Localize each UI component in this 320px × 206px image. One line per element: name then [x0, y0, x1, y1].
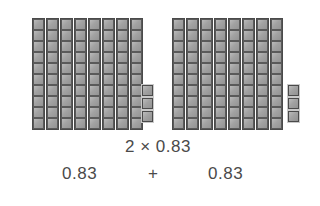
unit-cell	[103, 74, 114, 85]
unit-cell	[201, 19, 212, 30]
unit-cell	[103, 118, 114, 129]
unit-cell	[187, 63, 198, 74]
unit-cell	[201, 85, 212, 96]
tens-rod	[214, 18, 227, 130]
unit-cell	[75, 85, 86, 96]
tens-rod	[74, 18, 87, 130]
tens-rod	[46, 18, 59, 130]
tens-rod	[172, 18, 185, 130]
tens-rod	[32, 18, 45, 130]
unit-cell	[173, 30, 184, 41]
unit-cell	[61, 41, 72, 52]
loose-unit-cube	[288, 85, 299, 96]
unit-cell	[117, 52, 128, 63]
unit-cell	[243, 118, 254, 129]
unit-cell	[33, 30, 44, 41]
unit-cell	[33, 96, 44, 107]
unit-cell	[173, 107, 184, 118]
unit-cell	[215, 19, 226, 30]
unit-cell	[33, 41, 44, 52]
unit-cell	[75, 41, 86, 52]
unit-cell	[187, 41, 198, 52]
sum-left-term: 0.83	[62, 164, 97, 184]
unit-cell	[131, 96, 142, 107]
unit-cell	[47, 107, 58, 118]
unit-cell	[75, 63, 86, 74]
tens-rod	[242, 18, 255, 130]
unit-cell	[33, 52, 44, 63]
tens-rod	[270, 18, 283, 130]
unit-cell	[271, 85, 282, 96]
unit-cell	[215, 74, 226, 85]
unit-cell	[201, 96, 212, 107]
tens-rod	[60, 18, 73, 130]
unit-cell	[257, 63, 268, 74]
unit-cell	[243, 74, 254, 85]
unit-cell	[215, 107, 226, 118]
unit-cell	[229, 96, 240, 107]
unit-cell	[33, 118, 44, 129]
unit-cell	[47, 96, 58, 107]
unit-cell	[61, 30, 72, 41]
unit-cell	[173, 118, 184, 129]
loose-unit-cube	[142, 111, 153, 122]
unit-cell	[229, 85, 240, 96]
unit-cell	[173, 85, 184, 96]
unit-cell	[33, 63, 44, 74]
tens-rod	[228, 18, 241, 130]
unit-cell	[117, 85, 128, 96]
unit-cell	[89, 118, 100, 129]
unit-cell	[47, 74, 58, 85]
loose-units-left	[142, 85, 153, 122]
unit-cell	[103, 19, 114, 30]
loose-units-right	[288, 85, 299, 122]
unit-cell	[229, 107, 240, 118]
loose-unit-cube	[142, 85, 153, 96]
unit-cell	[243, 63, 254, 74]
unit-cell	[243, 85, 254, 96]
unit-cell	[47, 63, 58, 74]
unit-cell	[47, 118, 58, 129]
unit-cell	[187, 74, 198, 85]
unit-cell	[243, 19, 254, 30]
unit-cell	[257, 96, 268, 107]
unit-cell	[271, 107, 282, 118]
unit-cell	[103, 41, 114, 52]
unit-cell	[271, 74, 282, 85]
unit-cell	[187, 85, 198, 96]
unit-cell	[243, 107, 254, 118]
unit-cell	[131, 41, 142, 52]
unit-cell	[75, 118, 86, 129]
unit-cell	[75, 30, 86, 41]
unit-cell	[131, 63, 142, 74]
unit-cell	[257, 85, 268, 96]
unit-cell	[243, 52, 254, 63]
unit-cell	[103, 30, 114, 41]
unit-cell	[89, 107, 100, 118]
unit-cell	[201, 118, 212, 129]
unit-cell	[229, 118, 240, 129]
unit-cell	[131, 118, 142, 129]
block-group-right	[172, 18, 283, 130]
unit-cell	[33, 85, 44, 96]
unit-cell	[33, 107, 44, 118]
unit-cell	[61, 85, 72, 96]
unit-cell	[131, 85, 142, 96]
unit-cell	[61, 74, 72, 85]
unit-cell	[75, 107, 86, 118]
unit-cell	[117, 74, 128, 85]
unit-cell	[187, 52, 198, 63]
unit-cell	[173, 52, 184, 63]
unit-cell	[243, 30, 254, 41]
unit-cell	[89, 41, 100, 52]
unit-cell	[271, 118, 282, 129]
unit-cell	[229, 41, 240, 52]
block-group-left	[32, 18, 143, 130]
loose-unit-cube	[288, 111, 299, 122]
unit-cell	[173, 74, 184, 85]
unit-cell	[257, 74, 268, 85]
unit-cell	[89, 63, 100, 74]
unit-cell	[201, 52, 212, 63]
unit-cell	[215, 96, 226, 107]
unit-cell	[103, 52, 114, 63]
